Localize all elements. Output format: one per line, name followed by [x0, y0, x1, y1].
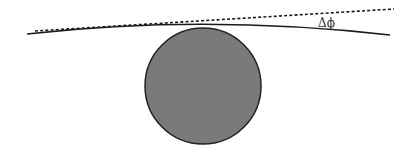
massive-sphere: [145, 28, 261, 144]
deflection-angle-label: Δϕ: [318, 17, 335, 29]
diagram-canvas: Δϕ: [0, 0, 410, 152]
deflection-diagram: [0, 0, 410, 152]
